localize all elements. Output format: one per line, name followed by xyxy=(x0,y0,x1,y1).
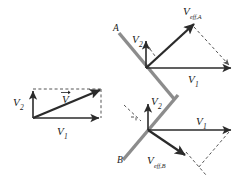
panel-bottom-right-surface-b: B V 2 V 1 V eff,B xyxy=(117,95,231,175)
dashed-normal-indicator-b xyxy=(124,105,141,121)
v2-label-left-panel: V 2 xyxy=(13,96,24,112)
dashed-normal-indicator-a xyxy=(150,49,155,56)
v1-label-left-panel: V 1 xyxy=(57,125,68,141)
v2-label-subscript-b: 2 xyxy=(158,102,162,111)
surface-b-label: B xyxy=(117,155,123,165)
v2-label-surface-a: V 2 xyxy=(132,33,143,49)
v1-label-surface-a: V 1 xyxy=(188,73,199,89)
veff-b-arrow xyxy=(148,130,185,155)
figure-canvas: V 2 V 1 V xyxy=(0,0,242,187)
vector-diagram-figure: V 2 V 1 V xyxy=(0,0,242,187)
v1-label-subscript: 1 xyxy=(64,132,68,141)
v2-label-subscript-a: 2 xyxy=(139,40,143,49)
dashed-veff-a-to-v1 xyxy=(194,27,229,65)
v1-label-subscript-b: 1 xyxy=(203,122,207,131)
veff-a-label-subscript: eff,A xyxy=(190,13,202,20)
dashed-right-angle-b xyxy=(131,117,136,121)
v1-label-subscript-a: 1 xyxy=(195,80,199,89)
veff-b-label: V eff,B xyxy=(147,154,166,169)
veff-b-label-subscript: eff,B xyxy=(154,162,166,169)
surface-a-label: A xyxy=(112,23,119,33)
v1-label-surface-b: V 1 xyxy=(196,115,207,131)
v2-label-subscript: 2 xyxy=(20,103,24,112)
v2-label-surface-b: V 2 xyxy=(151,95,162,111)
veff-a-arrow xyxy=(146,24,194,68)
panel-left-resultant: V 2 V 1 V xyxy=(13,89,101,141)
dashed-v1-to-corner-b xyxy=(198,132,229,168)
panel-top-right-surface-a: A V 2 V 1 V eff,A xyxy=(112,5,231,100)
dashed-veff-b-extension xyxy=(186,152,206,175)
veff-a-label: V eff,A xyxy=(183,5,202,20)
